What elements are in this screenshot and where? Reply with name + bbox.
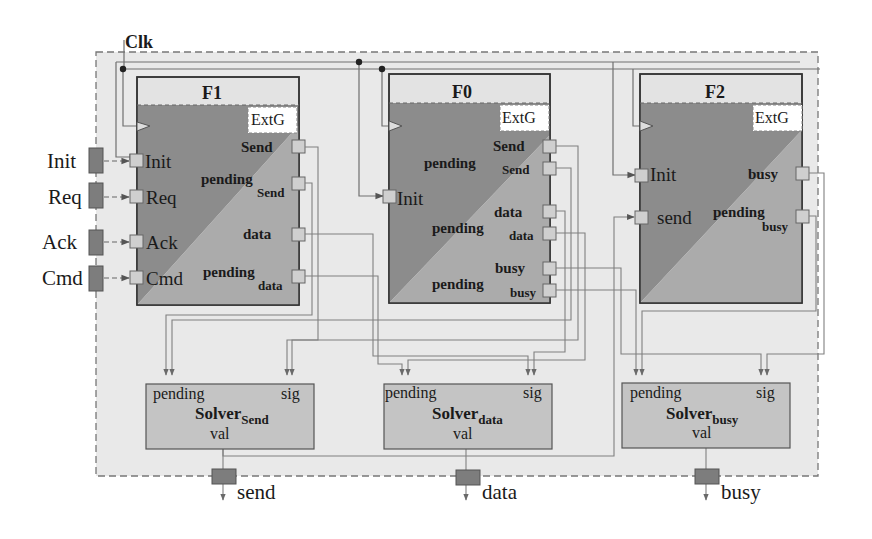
f2-input-send: send (657, 208, 692, 227)
output-label-send: send (237, 482, 276, 503)
f2-output-pending-busy: pending (713, 205, 765, 220)
f1-output-pending-send-sub: Send (257, 186, 284, 199)
badge-extg-f1: ExtG (251, 112, 285, 128)
solver-busy-sig-port: sig (756, 385, 775, 401)
solver-send-pending-port: pending (153, 386, 205, 402)
f1-input-req: Req (146, 188, 177, 207)
clock-label: Clk (125, 33, 153, 51)
solver-data-sig-port: sig (523, 385, 542, 401)
f1-output-pending-data-sub: data (258, 279, 283, 292)
solver-busy-val-port: val (692, 425, 712, 441)
solver-busy-pending-port: pending (630, 385, 682, 401)
f1-output-pending-send: pending (201, 172, 253, 187)
ext-input-init: Init (47, 151, 76, 172)
solver-busy-name: Solverbusy (666, 405, 738, 426)
f0-output-busy: busy (495, 261, 525, 276)
f0-output-pending-send-sub: Send (502, 163, 529, 176)
solver-data-name: Solverdata (432, 405, 503, 426)
f1-input-cmd: Cmd (146, 269, 183, 288)
f0-output-pending-busy: pending (432, 277, 484, 292)
f0-output-send: Send (493, 139, 525, 154)
f1-input-init: Init (145, 152, 171, 171)
f0-input-init: Init (397, 189, 423, 208)
f2-input-init: Init (650, 165, 676, 184)
f2-output-busy: busy (748, 167, 778, 182)
ext-input-req: Req (48, 187, 82, 208)
badge-extg-f2: ExtG (755, 110, 789, 126)
output-marker-data (456, 470, 480, 485)
solver-data-pending-port: pending (385, 385, 437, 401)
ext-input-ack: Ack (42, 232, 77, 253)
solver-data-val-port: val (453, 426, 473, 442)
output-marker-busy (695, 469, 719, 484)
block-title-f2: F2 (705, 83, 725, 101)
solver-send-sig-port: sig (281, 386, 300, 402)
f0-output-pending-busy-sub: busy (510, 286, 536, 299)
output-label-busy: busy (721, 482, 761, 503)
f0-output-pending-data-sub: data (509, 229, 534, 242)
solver-send-name: SolverSend (195, 405, 269, 426)
block-title-f1: F1 (202, 84, 222, 102)
f0-output-pending-send: pending (424, 156, 476, 171)
f0-output-data: data (494, 205, 522, 220)
dataflow-diagram (0, 0, 872, 539)
f1-output-send: Send (241, 140, 273, 155)
block-title-f0: F0 (452, 83, 472, 101)
f1-input-ack: Ack (146, 233, 178, 252)
f1-output-pending-data: pending (203, 265, 255, 280)
badge-extg-f0: ExtG (502, 110, 536, 126)
f1-output-data: data (243, 227, 271, 242)
output-marker-send (212, 469, 236, 484)
f0-output-pending-data: pending (432, 221, 484, 236)
f2-output-pending-busy-sub: busy (762, 220, 788, 233)
output-label-data: data (482, 482, 517, 503)
solver-send-val-port: val (210, 426, 230, 442)
ext-input-cmd: Cmd (42, 268, 83, 289)
